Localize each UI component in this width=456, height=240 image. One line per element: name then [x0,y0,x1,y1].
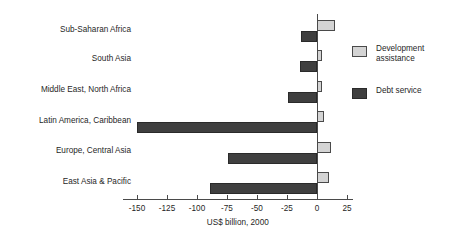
category-label-3: Latin America, Caribbean [0,116,131,126]
legend-label: Development assistance [376,44,424,64]
x-tick-mark [287,195,288,199]
x-tick-mark [167,195,168,199]
category-label-text: South Asia [92,54,131,64]
bar-debt-service [228,153,317,164]
square-swatch-light-icon [352,46,367,57]
bar-debt-service [301,31,317,42]
category-label-0: Sub-Saharan Africa [0,25,131,35]
x-tick-mark [257,195,258,199]
bar-debt-service [300,61,317,72]
category-label-5: East Asia & Pacific [0,177,131,187]
x-tick-mark [137,195,138,199]
zero-axis-line [317,14,318,199]
x-tick-mark [347,195,348,199]
square-swatch-dark-icon [352,88,367,99]
legend-item-debt-service: Debt service [352,86,456,108]
category-label-4: Europe, Central Asia [0,146,131,156]
x-tick-mark [317,195,318,199]
x-axis-title: US$ billion, 2000 [138,218,338,228]
bar-chart: Sub-Saharan Africa South Asia Middle Eas… [0,0,456,240]
category-label-text: Middle East, North Africa [41,85,131,95]
bar-development-assistance [317,142,331,153]
category-label-text: Latin America, Caribbean [39,116,131,126]
x-tick-mark [197,195,198,199]
legend-item-development-assistance: Development assistance [352,44,456,66]
bar-development-assistance [317,20,335,31]
x-axis-line [123,199,353,200]
bar-debt-service [210,183,317,194]
bar-development-assistance [317,111,324,122]
bar-debt-service [137,122,317,133]
category-label-text: Sub-Saharan Africa [60,25,131,35]
category-label-text: Europe, Central Asia [56,146,131,156]
category-label-2: Middle East, North Africa [0,85,131,95]
category-label-1: South Asia [0,54,131,64]
bar-development-assistance [317,172,329,183]
legend-label: Debt service [376,86,422,96]
bar-debt-service [288,92,317,103]
category-label-text: East Asia & Pacific [63,177,131,187]
x-tick-mark [227,195,228,199]
x-tick-label: 25 [327,204,367,214]
chart-legend: Development assistance Debt service [352,44,456,128]
